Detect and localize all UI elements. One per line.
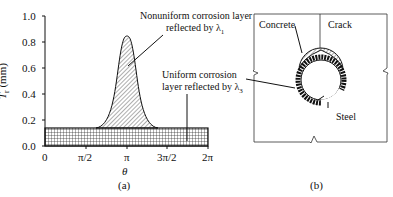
label-steel: Steel bbox=[336, 112, 356, 122]
xtick: π bbox=[124, 152, 130, 163]
xtick: π/2 bbox=[78, 152, 92, 163]
caption-b: (b) bbox=[310, 180, 323, 191]
ytick: 1.0 bbox=[22, 11, 36, 22]
ytick: 0.0 bbox=[22, 141, 36, 152]
uniform-band bbox=[45, 128, 208, 146]
xtick: 0 bbox=[42, 152, 48, 163]
ytick: 0.4 bbox=[22, 89, 36, 100]
caption-a: (a) bbox=[118, 180, 130, 191]
annotation-uniform-2: layer reflected by λ3 bbox=[162, 82, 243, 95]
label-concrete: Concrete bbox=[259, 20, 295, 30]
nonuniform-area bbox=[96, 36, 158, 128]
ytick: 0.2 bbox=[22, 115, 36, 126]
xtick: 2π bbox=[202, 152, 213, 163]
annotation-uniform: Uniform corrosion bbox=[162, 70, 237, 80]
ytick: 0.8 bbox=[22, 37, 36, 48]
label-crack: Crack bbox=[328, 20, 352, 30]
figure: 1.0 0.8 0.6 0.4 0.2 0.0 0 π/2 π 3π/2 2π … bbox=[0, 0, 393, 197]
annotation-nonuniform: Nonuniform corrosion layer bbox=[140, 11, 252, 21]
x-axis-label: θ bbox=[122, 166, 127, 177]
xtick: 3π/2 bbox=[157, 152, 177, 163]
steel-bar bbox=[298, 48, 344, 108]
ytick: 0.6 bbox=[22, 63, 36, 74]
annotation-nonuniform-2: reflected by λ1 bbox=[166, 23, 224, 36]
y-axis-label: Tr (mm) bbox=[0, 63, 11, 99]
